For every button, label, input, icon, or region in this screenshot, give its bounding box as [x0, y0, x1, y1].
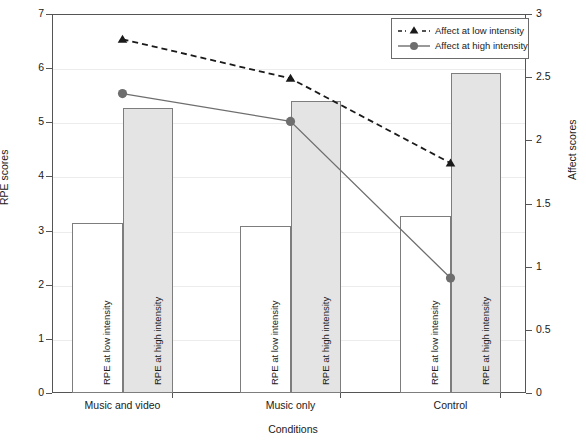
x-axis-tick-mark	[500, 393, 501, 398]
x-axis-tick-mark	[172, 393, 173, 398]
circle-icon	[397, 39, 431, 53]
y-axis-left-tick-label: 1	[14, 332, 44, 344]
x-axis-tick-mark	[340, 393, 341, 398]
legend-label: Affect at high intensity	[435, 40, 528, 51]
x-axis-tick-label: Control	[381, 399, 521, 411]
y-axis-left-tick-label: 5	[14, 115, 44, 127]
bar-rpe-high-1[interactable]	[123, 108, 174, 393]
y-axis-left-tick-label: 7	[14, 7, 44, 19]
y-axis-right-tick-mark	[526, 77, 532, 78]
y-axis-right-tick-mark	[526, 204, 532, 205]
y-axis-right-tick-mark	[526, 330, 532, 331]
y-axis-left-tick-mark	[46, 285, 52, 286]
y-axis-right-tick-label: 2.5	[536, 70, 576, 82]
y-axis-right-tick-label: 1	[536, 260, 576, 272]
chart-container: 01234567 00.511.522.53 Music and videoMu…	[0, 0, 586, 441]
bar-rpe-high-2[interactable]	[291, 101, 342, 393]
y-axis-right-title: Affect scores	[566, 120, 578, 181]
y-axis-left-tick-mark	[46, 176, 52, 177]
y-axis-left-tick-mark	[46, 393, 52, 394]
y-axis-left-tick-label: 3	[14, 224, 44, 236]
y-axis-left-tick-mark	[46, 122, 52, 123]
bar-rpe-low-3[interactable]	[400, 216, 451, 393]
y-axis-right-tick-label: 0	[536, 386, 576, 398]
y-axis-right-tick-label: 0.5	[536, 323, 576, 335]
y-axis-right-tick-mark	[526, 14, 532, 15]
bar-label: RPE at low intensity	[101, 301, 112, 385]
bar-label: RPE at high intensity	[320, 297, 331, 385]
legend-label: Affect at low intensity	[435, 25, 524, 36]
gridline	[53, 69, 525, 70]
bar-rpe-low-2[interactable]	[240, 226, 291, 393]
y-axis-right-tick-label: 1.5	[536, 197, 576, 209]
bar-label: RPE at high intensity	[480, 297, 491, 385]
y-axis-left-tick-mark	[46, 14, 52, 15]
y-axis-left-tick-mark	[46, 68, 52, 69]
bar-rpe-high-3[interactable]	[451, 73, 502, 393]
legend-item-affect-low[interactable]: Affect at low intensity	[397, 23, 523, 38]
x-axis-tick-label: Music and video	[53, 399, 193, 411]
y-axis-right-tick-mark	[526, 140, 532, 141]
y-axis-right-tick-mark	[526, 267, 532, 268]
y-axis-left-tick-label: 2	[14, 278, 44, 290]
y-axis-left-tick-mark	[46, 339, 52, 340]
y-axis-left-tick-mark	[46, 231, 52, 232]
bar-label: RPE at low intensity	[269, 301, 280, 385]
x-axis-tick-label: Music only	[221, 399, 361, 411]
y-axis-left-title: RPE scores	[0, 150, 10, 205]
y-axis-right-tick-mark	[526, 393, 532, 394]
bar-label: RPE at low intensity	[429, 301, 440, 385]
triangle-icon	[397, 24, 431, 38]
y-axis-right-tick-label: 3	[536, 7, 576, 19]
legend: Affect at low intensity Affect at high i…	[391, 18, 529, 59]
y-axis-left-tick-label: 4	[14, 169, 44, 181]
legend-item-affect-high[interactable]: Affect at high intensity	[397, 38, 523, 53]
bar-rpe-low-1[interactable]	[72, 223, 123, 393]
x-axis-title: Conditions	[0, 423, 586, 435]
y-axis-left-tick-label: 0	[14, 386, 44, 398]
bar-label: RPE at high intensity	[152, 297, 163, 385]
y-axis-left-tick-label: 6	[14, 61, 44, 73]
